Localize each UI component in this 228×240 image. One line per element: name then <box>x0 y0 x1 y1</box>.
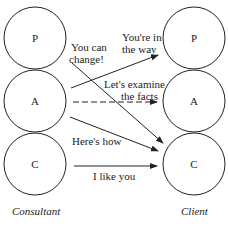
label-youre-in-2: the way <box>122 44 157 55</box>
client-a-label: A <box>184 95 204 107</box>
label-heres-how: Here's how <box>72 136 121 147</box>
label-examine-1: Let's examine <box>104 79 165 90</box>
label-i-like-you: I like you <box>93 171 135 182</box>
client-c-label: C <box>184 158 204 170</box>
label-you-can-1: You can <box>71 42 107 53</box>
consultant-a-label: A <box>25 95 45 107</box>
consultant-caption: Consultant <box>12 205 60 217</box>
consultant-c-label: C <box>25 158 45 170</box>
label-examine-2: the facts <box>121 91 158 102</box>
consultant-p-label: P <box>25 32 45 44</box>
arrow-p-to-c <box>72 63 163 143</box>
label-youre-in-1: You're in <box>122 32 162 43</box>
client-caption: Client <box>181 205 208 217</box>
label-you-can-2: change! <box>69 54 104 65</box>
client-p-label: P <box>184 32 204 44</box>
